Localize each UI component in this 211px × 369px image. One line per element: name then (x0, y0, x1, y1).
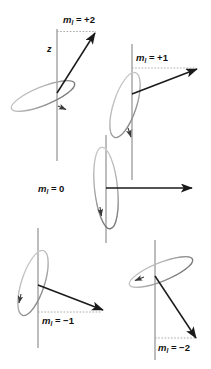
figure-canvas: z ml = +2 ml = +1 ml = 0 (0, 0, 211, 369)
m-value: +2 (84, 14, 95, 25)
m-value: 0 (59, 183, 64, 194)
m-equals: = (73, 14, 84, 25)
m-value: −1 (63, 315, 75, 326)
z-axis-label: z (46, 44, 52, 54)
label-m-plus-1: ml = +1 (136, 52, 169, 64)
m-equals: = (52, 315, 63, 326)
m-equals: = (168, 342, 179, 353)
m-equals: = (48, 183, 59, 194)
label-m-zero: ml = 0 (38, 183, 64, 195)
label-m-minus-1: ml = −1 (42, 315, 75, 327)
m-value: +1 (157, 52, 169, 63)
m-value: −2 (179, 342, 190, 353)
label-m-minus-2: ml = −2 (158, 342, 190, 354)
angular-momentum-figure: z ml = +2 ml = +1 ml = 0 (0, 0, 211, 369)
m-equals: = (146, 52, 157, 63)
label-m-plus-2: ml = +2 (63, 14, 95, 26)
